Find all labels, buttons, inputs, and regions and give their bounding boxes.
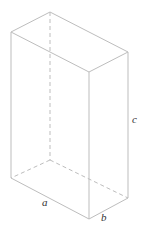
hidden-bottom-left-edge [11, 160, 50, 178]
label-b: b [101, 212, 107, 223]
top-face [11, 12, 128, 72]
rectangular-prism [0, 0, 144, 231]
label-a: a [42, 197, 48, 208]
label-c: c [132, 114, 137, 125]
bottom-front-edge [11, 178, 89, 219]
bottom-right-edge [89, 198, 128, 219]
